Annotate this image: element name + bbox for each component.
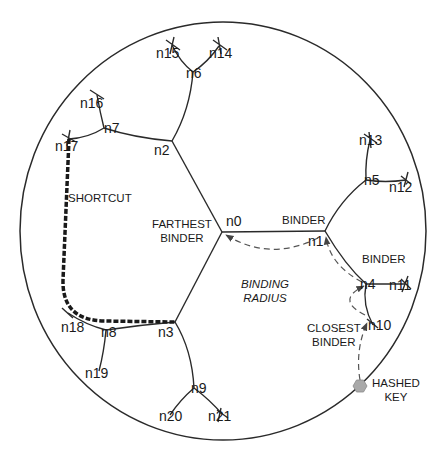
caption-binding-radius: BINDING RADIUS <box>241 278 289 306</box>
hashed-key-marker <box>353 380 367 392</box>
node-label-n21: n21 <box>208 409 231 423</box>
caption-line: RADIUS <box>241 292 289 306</box>
node-label-n0: n0 <box>226 214 242 228</box>
caption-binder-top: BINDER <box>282 214 325 228</box>
caption-line: KEY <box>372 391 420 405</box>
caption-line: BINDER <box>152 232 212 246</box>
caption-shortcut: SHORTCUT <box>68 192 132 206</box>
node-label-n15: n15 <box>156 46 179 60</box>
hash-ring <box>20 22 426 440</box>
edge-n3-n9 <box>175 322 194 388</box>
edge-n1-n5 <box>325 180 366 231</box>
node-label-n18: n18 <box>61 320 84 334</box>
node-label-n7: n7 <box>104 121 120 135</box>
node-label-n10: n10 <box>368 318 391 332</box>
node-label-n2: n2 <box>154 143 170 157</box>
edge-n2-n6 <box>172 72 193 141</box>
node-label-n8: n8 <box>101 325 117 339</box>
node-label-n9: n9 <box>191 381 207 395</box>
node-label-n13: n13 <box>359 133 382 147</box>
lookup-path <box>226 235 367 380</box>
caption-closest-binder: CLOSEST BINDER <box>307 322 361 350</box>
node-label-n4: n4 <box>360 277 376 291</box>
node-label-n5: n5 <box>364 173 380 187</box>
node-label-n17: n17 <box>55 139 78 153</box>
caption-line: BINDER <box>307 336 361 350</box>
caption-line: FARTHEST <box>152 218 212 232</box>
node-label-n12: n12 <box>389 180 412 194</box>
arrow-n1-to-n0 <box>226 235 318 249</box>
node-label-n14: n14 <box>209 46 232 60</box>
caption-hashed-key: HASHED KEY <box>372 377 420 405</box>
node-label-n20: n20 <box>159 409 182 423</box>
node-label-n3: n3 <box>158 325 174 339</box>
node-label-n19: n19 <box>85 366 108 380</box>
caption-line: BINDING <box>241 278 289 292</box>
caption-binder-right: BINDER <box>362 253 405 267</box>
node-label-n16: n16 <box>80 96 103 110</box>
caption-farthest-binder: FARTHEST BINDER <box>152 218 212 246</box>
caption-line: HASHED <box>372 377 420 391</box>
node-label-n6: n6 <box>186 66 202 80</box>
edge-n0-n1 <box>222 231 325 232</box>
caption-line: CLOSEST <box>307 322 361 336</box>
node-label-n1: n1 <box>308 234 324 248</box>
node-label-n11: n11 <box>389 278 411 292</box>
